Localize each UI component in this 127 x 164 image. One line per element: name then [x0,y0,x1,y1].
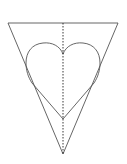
heart-triangle-diagram [0,0,127,164]
background [0,0,127,164]
